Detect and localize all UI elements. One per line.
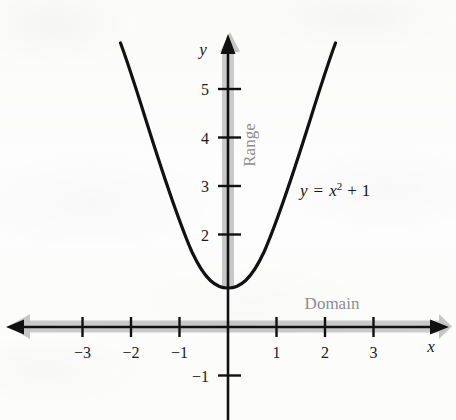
graph-plot: y x −3 −2 −1 1 2 3 5 4 3 2 −1 Domain Ran… (0, 0, 456, 420)
x-axis-label: x (426, 337, 435, 356)
x-tick-label-1: 1 (273, 344, 281, 361)
axis-lines (6, 34, 449, 420)
x-tick-label-2: 2 (321, 344, 329, 361)
range-highlight-band (220, 32, 240, 286)
domain-label: Domain (305, 294, 360, 313)
x-tick-label-neg3: −3 (74, 344, 91, 361)
x-tick-label-neg2: −2 (122, 344, 139, 361)
equation-plus: + (347, 181, 357, 200)
y-tick-label-4: 4 (201, 130, 209, 147)
x-tick-label-3: 3 (370, 344, 378, 361)
y-axis-label: y (197, 40, 207, 59)
figure-canvas: y x −3 −2 −1 1 2 3 5 4 3 2 −1 Domain Ran… (0, 0, 456, 420)
equation-constant: 1 (362, 181, 371, 200)
equation-label: y=x2+1 (298, 180, 370, 200)
y-tick-label-2: 2 (201, 227, 209, 244)
equation-lhs: y (298, 181, 308, 200)
x-tick-label-neg1: −1 (171, 344, 188, 361)
range-label: Range (240, 123, 259, 166)
y-tick-label-5: 5 (201, 81, 209, 98)
y-tick-label-3: 3 (201, 178, 209, 195)
y-tick-label-neg1: −1 (192, 368, 209, 385)
x-axis-arrowhead-left (6, 320, 24, 335)
svg-text:y=x2+1: y=x2+1 (298, 180, 370, 200)
equation-equals: = (314, 181, 324, 200)
equation-exponent: 2 (337, 180, 343, 192)
